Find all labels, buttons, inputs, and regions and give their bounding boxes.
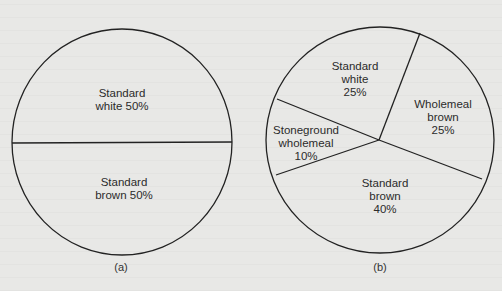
slice-label-standard-white-b: Standard white 25% xyxy=(332,60,379,99)
pie-a-divider xyxy=(12,142,232,143)
slice-label-standard-white-a: Standard white 50% xyxy=(95,87,148,113)
slice-label-standard-brown-a: Standard brown 50% xyxy=(95,176,153,202)
pie-charts-figure xyxy=(0,0,502,291)
slice-label-stoneground-wholemeal-b: Stoneground wholemeal 10% xyxy=(273,124,339,163)
pie-chart-a xyxy=(12,29,232,255)
pie-b-divider-lower-right xyxy=(379,140,482,179)
caption-b: (b) xyxy=(373,261,386,273)
caption-a: (a) xyxy=(114,261,127,273)
slice-label-wholemeal-brown-b: Wholemeal brown 25% xyxy=(414,98,472,137)
slice-label-standard-brown-b: Standard brown 40% xyxy=(362,177,409,216)
